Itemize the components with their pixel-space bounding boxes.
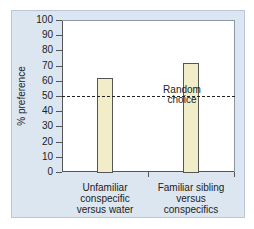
y-tick-label: 100: [29, 15, 53, 25]
x-label-familiar: Familiar sibling versus conspecifics: [149, 182, 233, 215]
plot-border-top: [62, 20, 235, 21]
y-tick-label: 90: [29, 30, 53, 40]
y-tick-label: 40: [29, 106, 53, 116]
y-axis-label: % preference: [16, 66, 27, 125]
bar-unfamiliar-conspecific: [97, 78, 113, 173]
y-tick-label: 0: [29, 167, 53, 177]
x-label-unfamiliar: Unfamiliar conspecific versus water: [63, 182, 147, 215]
y-axis-tick: [56, 81, 62, 82]
y-axis-tick: [56, 20, 62, 21]
y-axis-tick: [56, 157, 62, 158]
y-tick-label: 60: [29, 76, 53, 86]
bar-familiar-sibling: [183, 63, 199, 173]
y-axis-tick: [56, 142, 62, 143]
y-axis-tick: [56, 35, 62, 36]
y-tick-label: 30: [29, 121, 53, 131]
y-tick-label: 70: [29, 61, 53, 71]
x-axis-tick: [234, 172, 235, 177]
y-tick-label: 80: [29, 45, 53, 55]
y-axis-tick: [56, 50, 62, 51]
y-tick-label: 20: [29, 137, 53, 147]
y-axis-tick: [56, 111, 62, 112]
y-tick-label: 10: [29, 152, 53, 162]
random-choice-label: Random choice: [152, 85, 212, 105]
y-axis-tick: [56, 126, 62, 127]
y-axis-tick: [56, 172, 62, 173]
y-tick-label: 50: [29, 91, 53, 101]
x-axis-tick: [148, 172, 149, 177]
y-axis-tick: [56, 66, 62, 67]
